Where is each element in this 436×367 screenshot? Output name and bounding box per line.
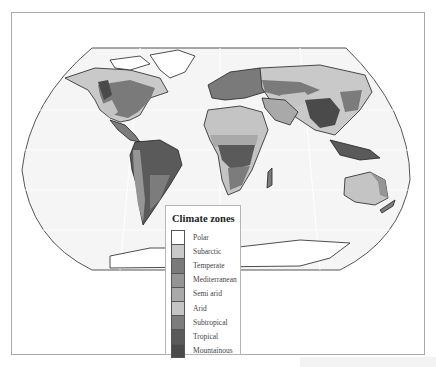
legend-item-mediterranean: Mediterranean bbox=[171, 273, 237, 287]
legend-items: Polar Subarctic Temperate Mediterranean … bbox=[171, 230, 237, 358]
swatch-mountainous bbox=[171, 344, 185, 358]
legend-label: Mediterranean bbox=[193, 275, 237, 284]
legend-label: Temperate bbox=[193, 261, 225, 270]
legend-item-semi-arid: Semi arid bbox=[171, 287, 237, 301]
legend-label: Polar bbox=[193, 233, 209, 242]
legend-item-arid: Arid bbox=[171, 301, 237, 315]
legend-item-subtropical: Subtropical bbox=[171, 315, 237, 329]
swatch-semi-arid bbox=[171, 287, 185, 301]
legend-title: Climate zones bbox=[172, 213, 235, 224]
legend-label: Semi arid bbox=[193, 289, 222, 298]
legend-label: Arid bbox=[193, 304, 207, 313]
swatch-temperate bbox=[171, 258, 185, 272]
legend-label: Subtropical bbox=[193, 318, 228, 327]
swatch-tropical bbox=[171, 329, 185, 343]
swatch-arid bbox=[171, 301, 185, 315]
swatch-subarctic bbox=[171, 244, 185, 258]
legend-item-mountainous: Mountainous bbox=[171, 344, 237, 358]
legend-item-subarctic: Subarctic bbox=[171, 244, 237, 258]
swatch-subtropical bbox=[171, 315, 185, 329]
legend-label: Mountainous bbox=[193, 346, 233, 355]
legend-item-tropical: Tropical bbox=[171, 329, 237, 343]
legend-item-temperate: Temperate bbox=[171, 258, 237, 272]
legend-item-polar: Polar bbox=[171, 230, 237, 244]
legend: Climate zones Polar Subarctic Temperate … bbox=[165, 205, 241, 355]
legend-label: Tropical bbox=[193, 332, 218, 341]
swatch-mediterranean bbox=[171, 273, 185, 287]
swatch-polar bbox=[171, 230, 185, 244]
legend-label: Subarctic bbox=[193, 247, 221, 256]
